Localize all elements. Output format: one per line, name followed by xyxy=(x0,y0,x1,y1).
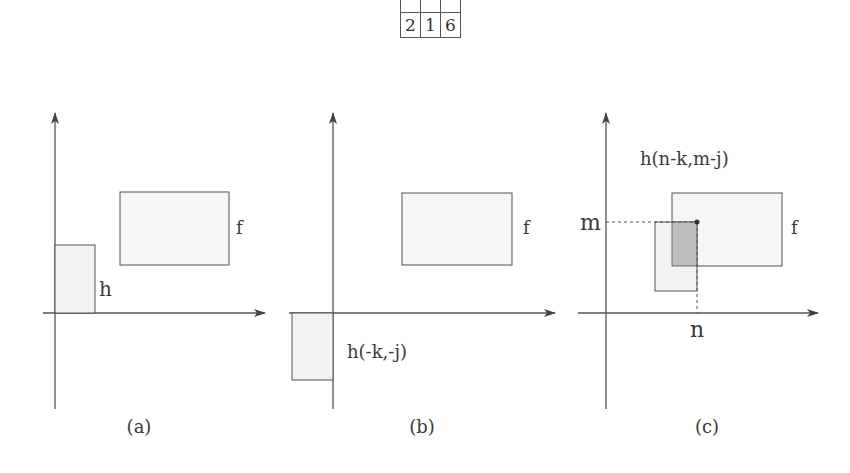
panel-c: f h(n-k,m-j) m n (c) xyxy=(578,113,818,437)
h-label: h(n-k,m-j) xyxy=(640,148,729,169)
point-marker xyxy=(695,220,700,225)
caption-a: (a) xyxy=(127,416,152,437)
f-label: f xyxy=(791,217,799,238)
h-label: h xyxy=(99,277,112,301)
panel-b: f h(-k,-j) (b) xyxy=(289,113,555,437)
convolution-figure: 2 1 6 f h (a) f h(-k,-j) xyxy=(0,0,850,473)
n-label: n xyxy=(690,317,704,342)
f-label: f xyxy=(236,217,244,238)
m-label: m xyxy=(580,210,601,235)
h-rect xyxy=(292,313,333,380)
panel-a: f h (a) xyxy=(43,113,265,437)
diagram-canvas: f h (a) f h(-k,-j) (b) f h(n-k,m-j) xyxy=(0,0,850,473)
f-rect xyxy=(120,192,229,265)
f-rect xyxy=(402,193,512,265)
f-label: f xyxy=(523,217,531,238)
overlap-region xyxy=(672,222,697,266)
h-rect xyxy=(55,245,95,313)
caption-c: (c) xyxy=(695,416,719,437)
h-label: h(-k,-j) xyxy=(347,341,407,362)
caption-b: (b) xyxy=(409,416,435,437)
